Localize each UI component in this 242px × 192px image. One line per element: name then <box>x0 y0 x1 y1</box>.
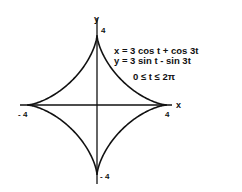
tick-x-pos-4: 4 <box>165 110 170 119</box>
equation-domain: 0 ≤ t ≤ 2π <box>133 71 176 82</box>
plot-canvas: x y - 4 4 4 - 4 x = 3 cos t + cos 3t y =… <box>0 0 242 192</box>
astroid-figure: x y - 4 4 4 - 4 x = 3 cos t + cos 3t y =… <box>0 0 242 192</box>
tick-x-neg-4: - 4 <box>18 110 28 119</box>
x-axis-label: x <box>176 100 181 110</box>
tick-y-neg-4: - 4 <box>100 172 110 181</box>
equation-y: y = 3 sin t - sin 3t <box>114 55 192 66</box>
tick-y-pos-4: 4 <box>101 26 106 35</box>
y-axis-label: y <box>94 14 99 24</box>
